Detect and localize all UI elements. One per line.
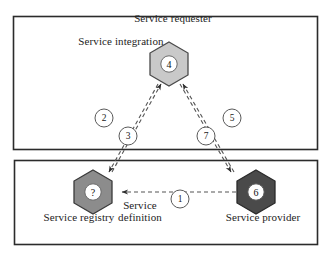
diagram-canvas: 4 ? 6 2 3 7 5 1 Service integration Serv… [0,0,335,256]
label-service-definition: Service definition [104,199,176,224]
step-marker-7-label: 7 [198,132,214,142]
label-service-requester: Service requester [130,12,216,24]
step-marker-3-label: 3 [120,132,136,142]
badge-label-requester: 4 [161,60,177,70]
badge-label-provider: 6 [248,188,264,198]
step-marker-2-label: 2 [96,114,112,124]
badge-label-registry: ? [85,188,101,198]
label-service-integration: Service integration [78,35,164,47]
label-service-provider: Service provider [221,211,305,223]
step-marker-5-label: 5 [224,114,240,124]
